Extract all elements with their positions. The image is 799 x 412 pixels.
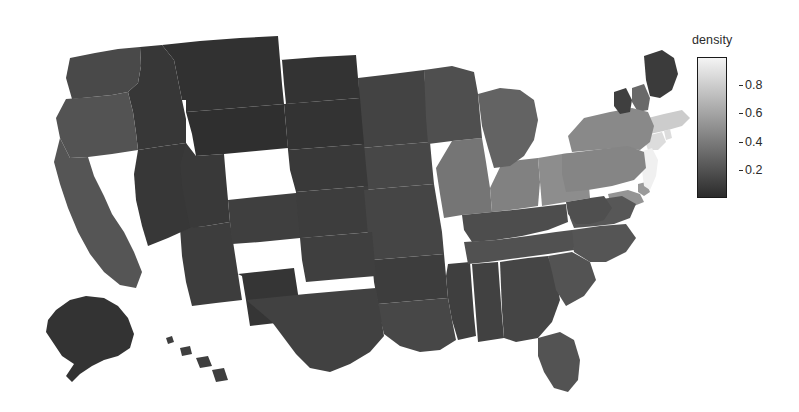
state-region-ri: Rhode Island: 0.88: [664, 129, 672, 140]
state-region-tx: Texas: 0.11: [246, 288, 384, 372]
state-region-or: Oregon: 0.2: [56, 92, 138, 158]
state-region-ks: Kansas: 0.09: [296, 186, 372, 238]
colorbar-tick-label: 0.2: [745, 164, 762, 177]
colorbar-tick-label: 0.8: [745, 79, 762, 92]
state-region-pa: Pennsylvania: 0.45: [562, 146, 646, 192]
colorbar-tick-mark: [739, 113, 743, 114]
state-region-ga: Georgia: 0.13: [500, 256, 560, 342]
state-region-sd: South Dakota: 0.04: [284, 98, 364, 150]
state-region-me: Maine: 0.08: [644, 50, 678, 98]
state-region-il: Illinois: 0.37: [436, 138, 492, 218]
colorbar-tick-mark: [739, 85, 743, 86]
state-region-la: Louisiana: 0.14: [378, 298, 456, 352]
state-region-nc: North Carolina: 0.21: [572, 224, 636, 262]
figure-canvas: Alabama: 0.11Alaska: 0.04Arizona: 0.09Ar…: [0, 0, 799, 412]
state-region-fl: Florida: 0.2: [538, 332, 580, 392]
state-region-nd: North Dakota: 0.04: [280, 55, 360, 104]
state-region-ar: Arkansas: 0.09: [372, 254, 448, 304]
legend-title: density: [692, 33, 732, 47]
colorbar-tick-label: 0.6: [745, 107, 762, 120]
colorbar-gradient: [697, 57, 727, 198]
state-region-wy: Wyoming: 0.02: [186, 104, 288, 156]
state-region-vt: Vermont: 0.1: [614, 88, 632, 114]
state-region-ut: Utah: 0.07: [180, 143, 230, 228]
legend: density 0.80.60.40.2: [686, 30, 786, 210]
state-region-mo: Missouri: 0.13: [364, 184, 444, 260]
choropleth-map: Alabama: 0.11Alaska: 0.04Arizona: 0.09Ar…: [0, 0, 799, 412]
state-region-ne: Nebraska: 0.07: [288, 144, 368, 192]
colorbar-tick-label: 0.4: [745, 135, 762, 148]
states-group: Alabama: 0.11Alaska: 0.04Arizona: 0.09Ar…: [46, 36, 690, 392]
state-region-ia: Iowa: 0.14: [362, 142, 434, 190]
state-region-al: Alabama: 0.11: [472, 262, 504, 342]
colorbar-wrap: 0.80.60.40.2: [697, 57, 727, 198]
state-region-ak: Alaska: 0.04: [46, 296, 134, 382]
state-region-ca: California: 0.21: [54, 138, 142, 288]
state-region-mi: Michigan: 0.28: [478, 88, 538, 168]
state-region-ny: New York: 0.47: [568, 108, 654, 152]
state-region-hi: Hawaii: 0.1: [166, 336, 228, 382]
state-region-ok: Oklahoma: 0.1: [300, 232, 376, 282]
state-region-mn: Minnesota: 0.12: [358, 70, 430, 148]
state-region-wi: Wisconsin: 0.18: [424, 66, 482, 144]
state-region-nh: New Hampshire: 0.31: [632, 84, 650, 112]
colorbar-tick-mark: [739, 170, 743, 171]
colorbar-tick-mark: [739, 142, 743, 143]
